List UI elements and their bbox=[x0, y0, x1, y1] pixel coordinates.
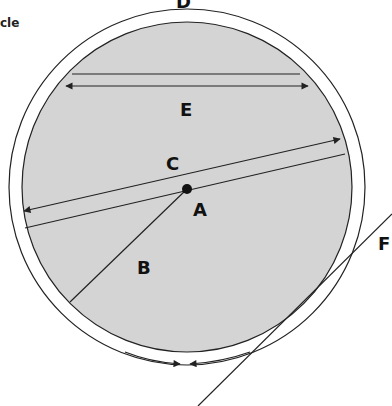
label-d: D bbox=[176, 0, 191, 12]
label-f: F bbox=[378, 233, 390, 254]
label-c: C bbox=[166, 153, 179, 174]
label-e: E bbox=[180, 99, 192, 120]
circle-diagram: D E C A B F bbox=[0, 0, 392, 406]
label-a: A bbox=[193, 199, 207, 220]
label-b: B bbox=[137, 257, 151, 278]
center-point-a bbox=[182, 184, 192, 194]
